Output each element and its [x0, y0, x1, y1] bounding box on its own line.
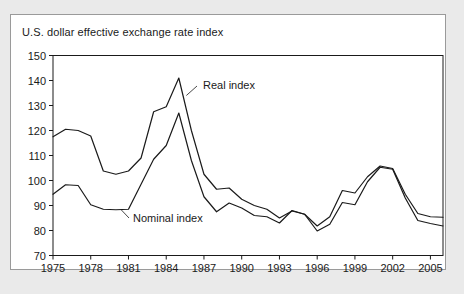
y-tick-label: 130: [28, 100, 46, 112]
y-tick-label: 80: [34, 225, 46, 237]
x-tick-label: 1993: [267, 262, 291, 274]
annotation-label-nominal-index: Nominal index: [133, 212, 203, 224]
x-tick-label: 2005: [418, 262, 442, 274]
x-tick-label: 1990: [229, 262, 253, 274]
figure-background: U.S. dollar effective exchange rate inde…: [0, 0, 464, 294]
y-tick-label: 70: [34, 250, 46, 262]
x-tick-label: 1996: [305, 262, 329, 274]
y-tick-label: 110: [28, 150, 46, 162]
x-tick-label: 2002: [380, 262, 404, 274]
y-tick-label: 90: [34, 200, 46, 212]
annotation-leader-line: [186, 86, 197, 96]
annotation-leader-line: [121, 210, 129, 219]
y-tick-label: 100: [28, 175, 46, 187]
x-tick-label: 1975: [41, 262, 65, 274]
x-tick-label: 1999: [343, 262, 367, 274]
x-tick-label: 1978: [78, 262, 102, 274]
series-line-nominal-index: [53, 113, 443, 231]
x-tick-label: 1981: [116, 262, 140, 274]
y-tick-label: 120: [28, 125, 46, 137]
line-chart: 7080901001101201301401501975197819811984…: [0, 0, 464, 294]
series-line-real-index: [53, 78, 443, 226]
y-tick-label: 150: [28, 50, 46, 62]
x-tick-label: 1987: [192, 262, 216, 274]
annotation-label-real-index: Real index: [203, 79, 255, 91]
y-tick-label: 140: [28, 75, 46, 87]
x-tick-label: 1984: [154, 262, 178, 274]
